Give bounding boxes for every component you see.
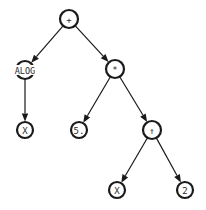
arrowhead-icon <box>22 114 28 122</box>
node-label: 2 <box>182 186 187 196</box>
edge-line <box>125 138 147 176</box>
edge-mult-to-five <box>83 77 110 123</box>
edge-alog-to-x1 <box>22 79 28 122</box>
edges-layer <box>22 26 181 183</box>
edge-line <box>36 26 63 57</box>
arrowhead-icon <box>140 113 147 122</box>
edge-plus-to-mult <box>75 26 109 62</box>
expression-tree-diagram: +ALOG*X5.↑X2 <box>0 0 206 210</box>
edge-line <box>75 26 103 56</box>
node-label: ALOG <box>15 66 35 76</box>
node-label: X <box>22 126 28 136</box>
node-label: X <box>114 186 120 196</box>
edge-line <box>156 138 177 176</box>
tree-node-alog: ALOG <box>9 61 41 79</box>
node-label: 5. <box>74 126 85 136</box>
tree-node-pow: ↑ <box>143 121 161 139</box>
edge-pow-to-x2 <box>121 138 147 183</box>
nodes-layer: +ALOG*X5.↑X2 <box>9 10 193 198</box>
edge-pow-to-two <box>156 138 181 183</box>
edge-mult-to-pow <box>120 77 147 122</box>
arrowhead-icon <box>121 174 128 183</box>
edge-line <box>87 77 110 116</box>
tree-node-five: 5. <box>71 122 87 138</box>
tree-node-x2: X <box>109 182 125 198</box>
tree-node-mult: * <box>106 60 124 78</box>
tree-node-x1: X <box>17 122 33 138</box>
node-label: ↑ <box>149 126 154 136</box>
node-label: + <box>66 15 72 25</box>
edge-plus-to-alog <box>31 26 63 63</box>
tree-node-plus: + <box>60 10 78 28</box>
tree-node-two: 2 <box>177 182 193 198</box>
node-label: * <box>112 65 117 75</box>
arrowhead-icon <box>174 174 181 183</box>
arrowhead-icon <box>83 114 90 123</box>
edge-line <box>120 77 143 115</box>
